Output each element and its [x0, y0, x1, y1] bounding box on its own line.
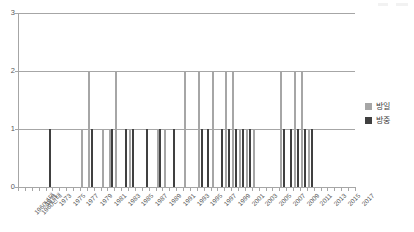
x-tick-mark — [80, 188, 81, 191]
x-tick-mark — [348, 188, 349, 191]
bar — [249, 129, 251, 187]
x-tick-mark — [94, 188, 95, 191]
x-tick-mark — [52, 188, 53, 191]
legend-label: 방일 — [376, 102, 390, 111]
x-tick-mark — [259, 188, 260, 191]
bar — [290, 129, 292, 187]
x-tick-mark — [46, 188, 47, 191]
x-tick-mark — [142, 188, 143, 191]
y-tick-label-2: 2 — [2, 67, 15, 75]
x-tick-mark — [341, 188, 342, 191]
x-tick-mark — [73, 188, 74, 191]
bar — [207, 129, 209, 187]
legend-label: 방중 — [376, 116, 390, 125]
x-tick-mark — [59, 188, 60, 191]
gridline-y-3 — [18, 13, 355, 14]
bar — [201, 129, 203, 187]
x-tick-mark — [231, 188, 232, 191]
x-tick-mark — [211, 188, 212, 191]
legend-item-bangil: 방일 — [365, 100, 411, 112]
x-tick-mark — [279, 188, 280, 191]
bar — [125, 129, 127, 187]
x-tick-mark — [114, 188, 115, 191]
plot-area — [18, 13, 355, 187]
x-tick-mark — [245, 188, 246, 191]
bar — [297, 129, 299, 187]
gridline-y-2 — [18, 71, 355, 72]
bar — [146, 129, 148, 187]
x-tick-mark — [204, 188, 205, 191]
bar — [49, 129, 51, 187]
x-axis-line — [18, 187, 356, 188]
x-tick-mark — [87, 188, 88, 191]
bar — [115, 71, 117, 187]
x-tick-mark — [300, 188, 301, 191]
bar — [81, 129, 83, 187]
bar — [102, 129, 104, 187]
legend-swatch-icon — [365, 117, 372, 124]
x-tick-mark — [266, 188, 267, 191]
bar — [242, 129, 244, 187]
x-tick-mark — [252, 188, 253, 191]
y-tick-label-3: 3 — [2, 9, 15, 17]
x-tick-mark — [39, 188, 40, 191]
legend-item-bangjung: 방중 — [365, 114, 411, 126]
x-tick-mark — [156, 188, 157, 191]
x-tick-mark — [327, 188, 328, 191]
x-tick-mark — [101, 188, 102, 191]
bar-chart: 0123 1960년대1960년대19711973197519771979198… — [0, 0, 414, 232]
bar — [91, 129, 93, 187]
x-tick-mark — [107, 188, 108, 191]
bar — [304, 129, 306, 187]
y-tick-label-1: 1 — [2, 125, 15, 133]
x-tick-mark — [162, 188, 163, 191]
legend-swatch-icon — [365, 103, 372, 110]
x-tick-mark — [176, 188, 177, 191]
x-tick-mark — [286, 188, 287, 191]
x-tick-mark — [314, 188, 315, 191]
x-tick-mark — [190, 188, 191, 191]
bar — [221, 129, 223, 187]
x-tick-mark — [224, 188, 225, 191]
chart-legend: 방일방중 — [365, 100, 411, 128]
x-tick-mark — [355, 188, 356, 191]
x-tick-mark — [307, 188, 308, 191]
x-tick-mark — [197, 188, 198, 191]
x-tick-mark — [169, 188, 170, 191]
bar — [184, 71, 186, 187]
x-tick-mark — [66, 188, 67, 191]
x-tick-mark — [217, 188, 218, 191]
bar — [164, 129, 166, 187]
y-tick-label-0: 0 — [2, 183, 15, 191]
bar — [228, 129, 230, 187]
x-tick-mark — [128, 188, 129, 191]
x-tick-mark — [135, 188, 136, 191]
bar — [159, 129, 161, 187]
bar — [212, 71, 214, 187]
x-tick-mark — [293, 188, 294, 191]
x-tick-mark — [238, 188, 239, 191]
bar — [235, 129, 237, 187]
x-tick-mark — [321, 188, 322, 191]
bar — [132, 129, 134, 187]
bar — [111, 129, 113, 187]
x-tick-mark — [272, 188, 273, 191]
bar — [283, 129, 285, 187]
x-tick-mark — [25, 188, 26, 191]
x-tick-mark — [121, 188, 122, 191]
x-tick-mark — [18, 188, 19, 191]
x-tick-mark — [149, 188, 150, 191]
bar — [253, 129, 255, 187]
bar — [173, 129, 175, 187]
x-tick-mark — [183, 188, 184, 191]
bar — [311, 129, 313, 187]
x-tick-mark — [334, 188, 335, 191]
x-tick-mark — [32, 188, 33, 191]
